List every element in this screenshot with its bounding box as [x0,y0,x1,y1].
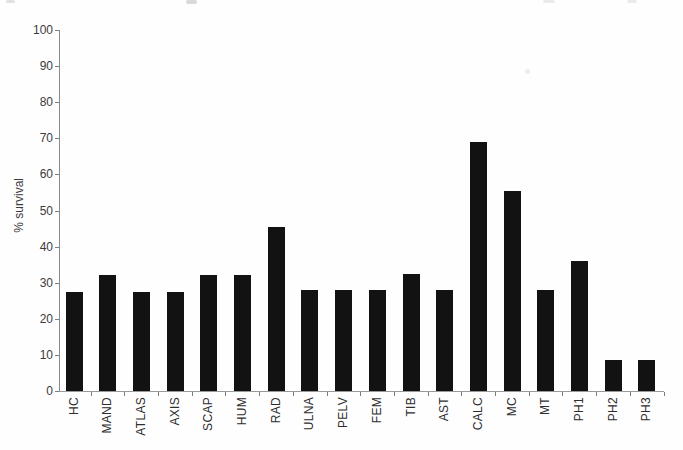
bar-ph2 [605,360,622,391]
x-category-label: AST [437,397,452,421]
y-tick [55,211,59,212]
x-category-label: HUM [235,397,250,425]
bar-atlas [133,292,150,391]
bar-scap [200,275,217,391]
y-tick [55,102,59,103]
bar-chart-figure: % survival 0102030405060708090100 HCMAND… [0,0,683,450]
scan-artifact [525,69,530,74]
y-tick-label: 60 [22,167,53,181]
y-tick [55,319,59,320]
bar-ulna [301,290,318,391]
y-tick-label: 30 [22,276,53,290]
y-tick [55,30,59,31]
bar-mc [504,191,521,391]
x-tick [360,392,361,396]
y-tick-label: 50 [22,204,53,218]
x-category-label: PH3 [639,397,654,421]
y-tick-label: 0 [22,384,53,398]
x-tick [293,392,294,396]
y-tick-label: 100 [22,23,53,37]
y-tick-label: 40 [22,240,53,254]
x-category-label: CALC [471,397,486,430]
y-axis-line [59,30,60,391]
bar-pelv [335,290,352,391]
y-tick-label: 90 [22,59,53,73]
x-category-label: PH1 [572,397,587,421]
x-tick [158,392,159,396]
x-category-label: SCAP [201,397,216,431]
bar-calc [470,142,487,391]
x-tick [562,392,563,396]
x-category-label: ATLAS [134,397,149,436]
x-tick [664,392,665,396]
x-category-label: PELV [336,397,351,428]
y-tick [55,283,59,284]
x-tick [91,392,92,396]
x-tick [529,392,530,396]
x-category-label: TIB [404,397,419,417]
x-tick [630,392,631,396]
x-category-label: AXIS [168,397,183,426]
x-category-label: MT [538,397,553,415]
bar-mand [99,275,116,391]
x-tick [124,392,125,396]
bar-hum [234,275,251,391]
bar-mt [537,290,554,391]
bar-ph1 [571,261,588,391]
y-tick [55,66,59,67]
y-tick [55,247,59,248]
scan-artifact [543,0,555,3]
y-tick [55,355,59,356]
y-tick-label: 80 [22,95,53,109]
y-tick-label: 10 [22,348,53,362]
x-tick [259,392,260,396]
x-category-label: MC [505,397,520,416]
x-tick [495,392,496,396]
scan-artifact [627,0,637,3]
bar-fem [369,290,386,391]
scan-artifact [6,0,15,3]
scan-artifact [186,0,197,4]
bar-hc [66,292,83,391]
y-tick-label: 70 [22,131,53,145]
bar-axis [167,292,184,391]
bar-ph3 [638,360,655,391]
x-category-label: ULNA [302,397,317,430]
x-category-label: MAND [100,397,115,434]
y-tick [55,391,59,392]
x-category-label: RAD [269,397,284,423]
x-tick [596,392,597,396]
x-tick [225,392,226,396]
x-tick [428,392,429,396]
x-category-label: FEM [370,397,385,423]
bar-ast [436,290,453,391]
x-tick [461,392,462,396]
x-tick [327,392,328,396]
y-tick [55,138,59,139]
bar-tib [403,274,420,391]
bar-rad [268,227,285,391]
x-category-label: HC [67,397,82,415]
y-tick [55,174,59,175]
x-tick [394,392,395,396]
x-axis-line [59,391,664,392]
x-tick [192,392,193,396]
y-tick-label: 20 [22,312,53,326]
x-category-label: PH2 [606,397,621,421]
